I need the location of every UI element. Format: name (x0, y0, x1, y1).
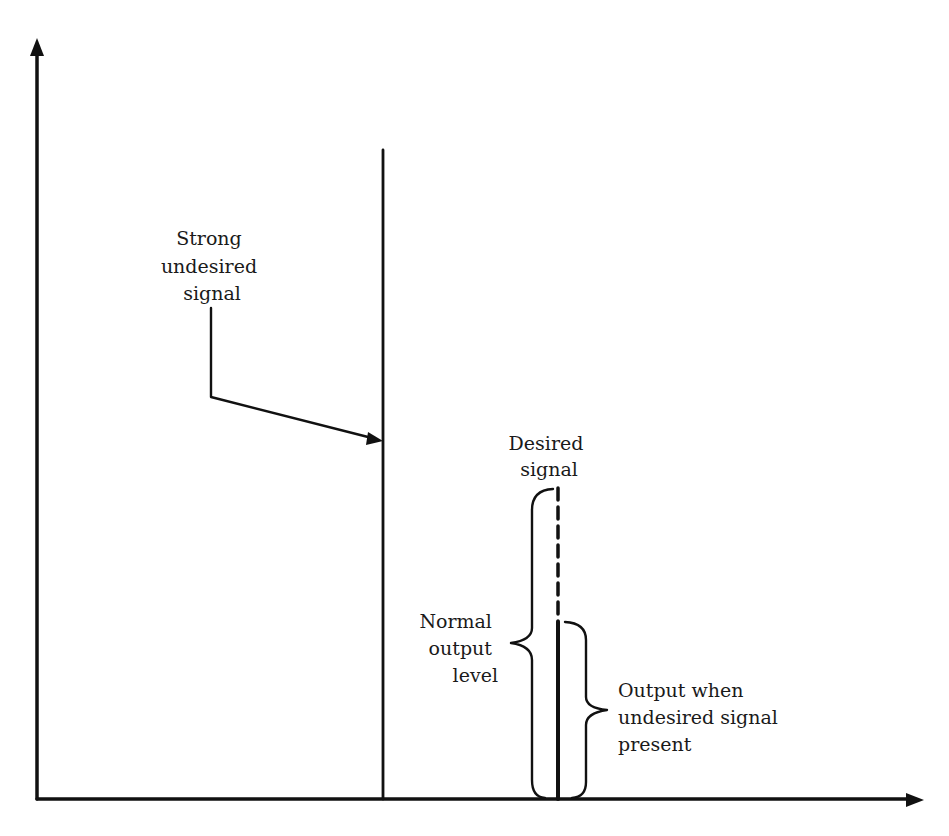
leader-arrow-icon (366, 432, 383, 445)
x-axis-arrow-icon (906, 793, 924, 807)
normal-output-brace (511, 489, 553, 798)
reduced-output-label-line-3: present (618, 733, 692, 755)
desired-signal-label: Desired signal (509, 432, 590, 480)
normal-output-label-line-1: Normal (419, 610, 492, 632)
reduced-output-brace (565, 622, 607, 798)
strong-signal-label-line-2: undesired (161, 255, 257, 277)
strong-signal-label-line-3: signal (183, 282, 241, 304)
reduced-output-label: Output when undesired signal present (618, 679, 784, 755)
reduced-output-label-line-1: Output when (618, 679, 744, 701)
strong-signal-leader (211, 308, 372, 438)
normal-output-label-line-2: output (429, 637, 493, 659)
desired-signal-label-line-1: Desired (509, 432, 584, 454)
normal-output-label: Normal output level (419, 610, 498, 686)
strong-signal-label: Strong undesired signal (161, 227, 263, 304)
normal-output-label-line-3: level (453, 664, 498, 686)
desired-signal-label-line-2: signal (520, 458, 578, 480)
y-axis-arrow-icon (30, 38, 44, 56)
strong-signal-label-line-1: Strong (176, 227, 242, 249)
reduced-output-label-line-2: undesired signal (618, 706, 778, 728)
diagram-canvas: Strong undesired signal Desired signal N… (0, 0, 949, 836)
